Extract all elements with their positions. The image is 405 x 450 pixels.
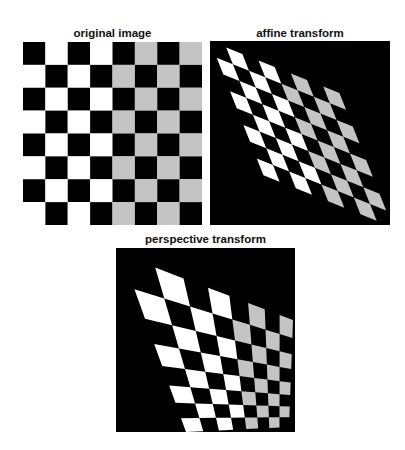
checker-cell <box>90 156 112 179</box>
perspective-checkerboard <box>116 248 295 432</box>
checker-cell <box>180 88 202 111</box>
checker-cell <box>45 42 67 65</box>
checker-cell <box>181 418 203 432</box>
checker-cell <box>180 134 202 157</box>
checker-cell <box>135 179 157 202</box>
checker-cell <box>45 156 67 179</box>
checker-cell <box>229 405 245 418</box>
checker-cell <box>90 179 112 202</box>
checker-cell <box>68 179 90 202</box>
checker-cell <box>135 156 157 179</box>
affine-checkerboard <box>210 41 390 225</box>
title-affine-transform: affine transform <box>210 26 390 40</box>
checker-cell <box>113 88 135 111</box>
checker-cell <box>251 344 266 364</box>
checker-cell <box>157 65 179 88</box>
checker-cell <box>90 134 112 157</box>
checker-cell <box>68 42 90 65</box>
affine-transform-panel <box>210 41 390 225</box>
checker-cell <box>223 374 241 391</box>
checker-cell <box>268 393 280 406</box>
checker-cell <box>113 156 135 179</box>
checker-cell <box>209 389 229 405</box>
checker-cell <box>45 202 67 225</box>
checker-cell <box>90 65 112 88</box>
checker-cell <box>23 65 45 88</box>
checker-cell <box>23 42 45 65</box>
checker-cell <box>201 353 224 374</box>
checker-cell <box>135 202 157 225</box>
checker-cell <box>45 65 67 88</box>
original-checkerboard <box>23 42 202 225</box>
checker-cell <box>245 417 258 429</box>
checker-cell <box>195 403 216 418</box>
checker-cell <box>113 202 135 225</box>
checker-cell <box>23 202 45 225</box>
checker-cell <box>23 134 45 157</box>
checker-cell <box>90 111 112 134</box>
checker-cell <box>180 202 202 225</box>
checker-cell <box>45 111 67 134</box>
checker-cell <box>45 134 67 157</box>
checker-cell <box>23 156 45 179</box>
checker-cell <box>180 156 202 179</box>
checker-cell <box>157 202 179 225</box>
checker-cell <box>157 88 179 111</box>
checker-cell <box>157 111 179 134</box>
checker-cell <box>267 365 280 382</box>
checker-cell <box>135 134 157 157</box>
checker-cell <box>269 417 280 428</box>
checker-cell <box>135 88 157 111</box>
checker-cell <box>90 202 112 225</box>
perspective-transform-panel <box>116 248 295 432</box>
checker-cell <box>169 386 195 404</box>
checker-cell <box>185 369 209 389</box>
checker-cell <box>216 418 233 431</box>
checker-cell <box>256 405 269 417</box>
checker-cell <box>23 179 45 202</box>
checker-cell <box>232 319 251 344</box>
checker-cell <box>113 179 135 202</box>
checker-cell <box>180 179 202 202</box>
checker-cell <box>248 303 265 330</box>
title-original-image: original image <box>23 26 202 40</box>
checker-cell <box>68 88 90 111</box>
checker-cell <box>23 111 45 134</box>
checker-cell <box>254 378 268 393</box>
checker-cell <box>280 381 291 395</box>
checker-cell <box>157 134 179 157</box>
checker-cell <box>113 111 135 134</box>
checker-cell <box>113 134 135 157</box>
checker-cell <box>113 42 135 65</box>
checker-cell <box>280 406 290 417</box>
checker-cell <box>157 179 179 202</box>
checker-cell <box>280 351 292 369</box>
checker-cell <box>180 111 202 134</box>
checker-cell <box>113 65 135 88</box>
checker-cell <box>68 111 90 134</box>
checker-cell <box>180 65 202 88</box>
checker-cell <box>68 134 90 157</box>
checker-cell <box>241 391 256 405</box>
checker-cell <box>45 88 67 111</box>
checker-cell <box>68 202 90 225</box>
checker-cell <box>68 65 90 88</box>
checker-cell <box>157 42 179 65</box>
original-image-panel <box>23 42 202 225</box>
checker-cell <box>68 156 90 179</box>
checker-cell <box>135 111 157 134</box>
checker-cell <box>135 42 157 65</box>
checker-cell <box>135 65 157 88</box>
checker-cell <box>280 315 293 338</box>
checker-cell <box>23 88 45 111</box>
checker-cell <box>217 336 238 359</box>
checker-cell <box>45 179 67 202</box>
checker-cell <box>237 359 254 378</box>
checker-cell <box>90 88 112 111</box>
checker-cell <box>266 330 280 352</box>
checker-cell <box>157 156 179 179</box>
checker-cell <box>180 42 202 65</box>
checker-cell <box>90 42 112 65</box>
title-perspective-transform: perspective transform <box>116 232 295 246</box>
